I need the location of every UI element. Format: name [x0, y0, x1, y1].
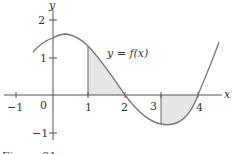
x-tick-label-2: 2 — [121, 101, 128, 114]
figure-caption: Figure 21 — [2, 150, 57, 154]
function-graph: y x −1 0 1 2 3 4 2 1 −1 y = f(x) Figure … — [0, 0, 233, 154]
y-tick-label-neg1: −1 — [32, 127, 48, 140]
x-tick-label-3: 3 — [150, 100, 157, 113]
x-tick-label-4: 4 — [196, 101, 203, 114]
curve-label: y = f(x) — [106, 47, 148, 60]
y-tick-label-1: 1 — [40, 52, 47, 65]
shaded-area-3-to-4 — [161, 95, 198, 125]
x-tick-label-0: 0 — [40, 99, 47, 112]
y-axis-label: y — [48, 0, 56, 12]
x-tick-label-neg1: −1 — [7, 101, 23, 114]
y-tick-label-2: 2 — [38, 14, 45, 27]
x-axis-label: x — [224, 88, 231, 101]
x-tick-label-1: 1 — [85, 101, 92, 114]
